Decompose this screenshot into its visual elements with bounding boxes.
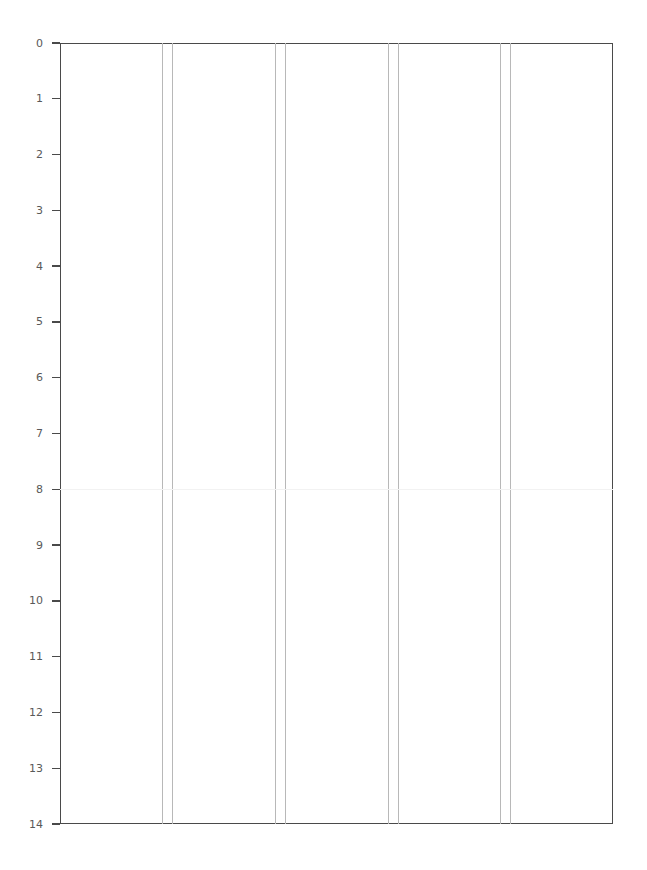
column-separator-1-left bbox=[275, 43, 276, 824]
y-tick-label-8: 8 bbox=[36, 484, 43, 495]
y-tick-mark-11 bbox=[52, 656, 60, 657]
y-tick-mark-3 bbox=[52, 210, 60, 211]
column-separator-1-right bbox=[285, 43, 286, 824]
column-separator-2-left bbox=[388, 43, 389, 824]
y-tick-mark-8 bbox=[52, 489, 60, 490]
y-tick-label-9: 9 bbox=[36, 540, 43, 551]
y-tick-mark-9 bbox=[52, 544, 60, 545]
row-rule-8 bbox=[60, 489, 613, 490]
y-tick-mark-0 bbox=[52, 42, 60, 43]
y-tick-mark-1 bbox=[52, 98, 60, 99]
column-separator-3-left bbox=[500, 43, 501, 824]
y-tick-mark-2 bbox=[52, 154, 60, 155]
y-tick-mark-13 bbox=[52, 768, 60, 769]
y-tick-label-13: 13 bbox=[29, 763, 43, 774]
y-tick-label-7: 7 bbox=[36, 428, 43, 439]
plot-area bbox=[60, 43, 613, 824]
y-tick-label-5: 5 bbox=[36, 316, 43, 327]
column-separator-0-left bbox=[162, 43, 163, 824]
y-tick-label-2: 2 bbox=[36, 149, 43, 160]
y-tick-mark-6 bbox=[52, 377, 60, 378]
y-tick-label-6: 6 bbox=[36, 372, 43, 383]
y-tick-mark-10 bbox=[52, 600, 60, 601]
y-tick-mark-7 bbox=[52, 433, 60, 434]
y-tick-label-0: 0 bbox=[36, 38, 43, 49]
y-tick-label-11: 11 bbox=[29, 651, 43, 662]
y-tick-mark-14 bbox=[52, 823, 60, 824]
y-tick-label-3: 3 bbox=[36, 205, 43, 216]
axis-spine-right bbox=[612, 43, 613, 824]
y-tick-mark-4 bbox=[52, 265, 60, 266]
chart-figure: 01234567891011121314 bbox=[0, 0, 647, 870]
y-tick-mark-5 bbox=[52, 321, 60, 322]
y-tick-label-1: 1 bbox=[36, 93, 43, 104]
y-tick-label-10: 10 bbox=[29, 595, 43, 606]
axis-spine-left bbox=[60, 43, 61, 824]
column-separator-3-right bbox=[510, 43, 511, 824]
axis-spine-top bbox=[60, 43, 613, 44]
column-separator-0-right bbox=[172, 43, 173, 824]
y-tick-mark-12 bbox=[52, 712, 60, 713]
y-tick-label-12: 12 bbox=[29, 707, 43, 718]
y-tick-label-4: 4 bbox=[36, 261, 43, 272]
column-separator-2-right bbox=[398, 43, 399, 824]
y-tick-label-14: 14 bbox=[29, 819, 43, 830]
axis-spine-bottom bbox=[60, 823, 613, 824]
